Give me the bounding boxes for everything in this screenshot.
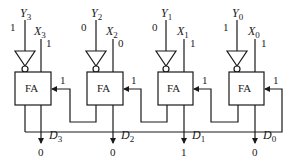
- fa3-label: FA: [25, 82, 38, 94]
- cin2-bit: 1: [131, 74, 137, 86]
- d0-bit: 0: [252, 146, 258, 158]
- d2-bit: 0: [110, 146, 116, 158]
- y0-label: Y0: [232, 6, 244, 22]
- y3-bit: 1: [10, 21, 16, 33]
- x3-label: X3: [33, 24, 46, 40]
- y2-inverter-icon: [86, 51, 106, 66]
- y3-inverter-icon: [15, 51, 35, 66]
- x0-label: X0: [247, 24, 260, 40]
- stage-1: 0 Y1 X1 1 FA 1 D1 1: [152, 6, 208, 158]
- y0-inverter-bubble: [234, 66, 240, 72]
- cin1-bit: 1: [202, 74, 208, 86]
- fa1-label: FA: [167, 82, 180, 94]
- fa0-label: FA: [238, 82, 251, 94]
- cin3-bit: 1: [60, 74, 66, 86]
- x2-bit: 0: [118, 37, 124, 49]
- d1-label: D1: [191, 128, 205, 144]
- stage-3: 1 Y3 X3 1 FA 1 D3 0: [10, 6, 66, 158]
- stage-0: 1 Y0 X0 1 FA 1 D0 0: [223, 6, 279, 158]
- fa2-label: FA: [97, 82, 110, 94]
- y1-bit: 0: [152, 21, 158, 33]
- d1-bit: 1: [181, 146, 187, 158]
- y1-inverter-bubble: [163, 66, 169, 72]
- x1-label: X1: [176, 24, 189, 40]
- stage-2: 0 Y2 X2 0 FA 1 D2 0: [81, 6, 137, 158]
- subtractor-diagram: 1 Y3 X3 1 FA 1 D3 0 0 Y2 X2 0 FA 1 D2 0: [0, 0, 294, 161]
- x0-bit: 1: [261, 37, 267, 49]
- y2-bit: 0: [81, 21, 87, 33]
- y2-label: Y2: [91, 6, 102, 22]
- d0-label: D0: [262, 128, 277, 144]
- y1-label: Y1: [161, 6, 172, 22]
- y2-inverter-bubble: [93, 66, 99, 72]
- d3-bit: 0: [38, 146, 44, 158]
- y3-inverter-bubble: [22, 66, 28, 72]
- d2-label: D2: [120, 128, 134, 144]
- x1-bit: 1: [190, 37, 196, 49]
- d3-label: D3: [48, 128, 63, 144]
- y1-inverter-icon: [156, 51, 176, 66]
- x2-label: X2: [105, 24, 118, 40]
- x3-bit: 1: [46, 37, 52, 49]
- y0-inverter-icon: [227, 51, 247, 66]
- y0-bit: 1: [223, 21, 229, 33]
- y3-label: Y3: [20, 6, 32, 22]
- cin0-bit: 1: [273, 74, 279, 86]
